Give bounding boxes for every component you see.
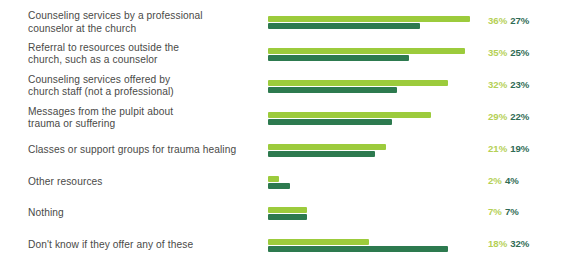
- chart-row: Classes or support groups for trauma hea…: [0, 144, 562, 176]
- category-label-line: church, such as a counselor: [28, 54, 158, 65]
- bar-series-light: [268, 207, 307, 213]
- bar-series-light: [268, 80, 448, 86]
- value-label-dark: 19%: [510, 143, 529, 154]
- bar-series-light: [268, 144, 386, 150]
- bar-series-light: [268, 112, 431, 118]
- bar-series-dark: [268, 55, 409, 61]
- value-label-dark: 4%: [505, 175, 519, 186]
- category-label: Classes or support groups for trauma hea…: [28, 144, 243, 157]
- value-label-light: 7%: [488, 206, 502, 217]
- value-labels: 2%4%: [488, 175, 558, 186]
- value-label-dark: 7%: [505, 206, 519, 217]
- category-label: Nothing: [28, 207, 243, 220]
- value-labels: 7%7%: [488, 206, 558, 217]
- horizontal-bar-chart: Counseling services by a professionalcou…: [0, 0, 562, 266]
- category-label-line: counselor at the church: [28, 23, 136, 34]
- category-label: Messages from the pulpit abouttrauma or …: [28, 106, 243, 131]
- bar-series-dark: [268, 214, 307, 220]
- bar-series-light: [268, 48, 465, 54]
- category-label: Counseling services by a professionalcou…: [28, 10, 243, 35]
- value-labels: 36%27%: [488, 15, 558, 26]
- category-label: Counseling services offered bychurch sta…: [28, 74, 243, 99]
- bar-series-light: [268, 176, 279, 182]
- bar-series-dark: [268, 23, 420, 29]
- value-labels: 21%19%: [488, 143, 558, 154]
- value-label-light: 32%: [488, 79, 507, 90]
- category-label-line: Nothing: [28, 207, 64, 218]
- value-labels: 29%22%: [488, 111, 558, 122]
- value-label-light: 36%: [488, 15, 507, 26]
- chart-row: Nothing7%7%: [0, 207, 562, 239]
- chart-row: Don't know if they offer any of these18%…: [0, 239, 562, 266]
- value-label-dark: 32%: [510, 238, 529, 249]
- value-label-light: 2%: [488, 175, 502, 186]
- value-label-dark: 23%: [510, 79, 529, 90]
- category-label-line: church staff (not a professional): [28, 86, 174, 97]
- category-label: Don't know if they offer any of these: [28, 239, 243, 252]
- category-label-line: Other resources: [28, 176, 103, 187]
- value-label-dark: 25%: [510, 47, 529, 58]
- category-label-line: Counseling services by a professional: [28, 10, 203, 21]
- category-label: Referral to resources outside thechurch,…: [28, 42, 243, 67]
- bar-series-dark: [268, 87, 397, 93]
- value-label-light: 35%: [488, 47, 507, 58]
- category-label: Other resources: [28, 176, 243, 189]
- value-labels: 32%23%: [488, 79, 558, 90]
- category-label-line: trauma or suffering: [28, 118, 115, 129]
- category-label-line: Don't know if they offer any of these: [28, 239, 193, 250]
- bar-series-dark: [268, 183, 290, 189]
- value-labels: 18%32%: [488, 238, 558, 249]
- bar-series-light: [268, 16, 470, 22]
- value-label-dark: 27%: [510, 15, 529, 26]
- category-label-line: Classes or support groups for trauma hea…: [28, 144, 236, 155]
- value-labels: 35%25%: [488, 47, 558, 58]
- chart-row: Messages from the pulpit abouttrauma or …: [0, 112, 562, 144]
- category-label-line: Counseling services offered by: [28, 74, 170, 85]
- value-label-light: 18%: [488, 238, 507, 249]
- value-label-dark: 22%: [510, 111, 529, 122]
- bar-series-light: [268, 239, 369, 245]
- chart-row: Other resources2%4%: [0, 176, 562, 208]
- value-label-light: 29%: [488, 111, 507, 122]
- category-label-line: Messages from the pulpit about: [28, 106, 173, 117]
- bar-series-dark: [268, 246, 448, 252]
- value-label-light: 21%: [488, 143, 507, 154]
- bar-series-dark: [268, 151, 375, 157]
- bar-series-dark: [268, 119, 392, 125]
- category-label-line: Referral to resources outside the: [28, 42, 179, 53]
